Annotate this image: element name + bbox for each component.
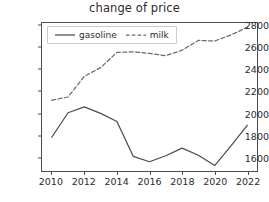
legend-entry-gasoline[interactable]: gasoline: [55, 30, 117, 40]
legend-label: gasoline: [79, 30, 117, 40]
x-tick-mark: [150, 172, 151, 175]
legend-entry-milk[interactable]: milk: [126, 30, 169, 40]
chart-title: change of price: [0, 1, 269, 15]
plot-area: [41, 22, 258, 172]
y-tick-mark: [38, 47, 41, 48]
y-tick-label: 2600: [233, 42, 269, 53]
legend-label: milk: [150, 30, 169, 40]
y-tick-mark: [38, 69, 41, 70]
x-tick-mark: [117, 172, 118, 175]
series-line-gasoline: [52, 107, 247, 166]
y-tick-label: 2400: [233, 64, 269, 75]
legend-swatch-dashed-icon: [126, 31, 146, 39]
legend-swatch-solid-icon: [55, 31, 75, 39]
x-tick-mark: [248, 172, 249, 175]
y-tick-label: 2000: [233, 108, 269, 119]
x-tick-label: 2022: [228, 176, 268, 187]
chart-legend: gasolinemilk: [47, 26, 177, 44]
x-tick-mark: [215, 172, 216, 175]
y-tick-mark: [38, 113, 41, 114]
line-chart: change of price gasolinemilk 16001800200…: [0, 0, 269, 202]
x-tick-mark: [51, 172, 52, 175]
plot-lines: [42, 23, 257, 171]
y-tick-mark: [38, 135, 41, 136]
y-tick-mark: [38, 25, 41, 26]
y-tick-mark: [38, 91, 41, 92]
y-tick-mark: [38, 157, 41, 158]
x-tick-mark: [182, 172, 183, 175]
x-tick-mark: [84, 172, 85, 175]
y-tick-label: 2800: [233, 20, 269, 31]
y-tick-label: 1600: [233, 152, 269, 163]
y-tick-label: 2200: [233, 86, 269, 97]
y-tick-label: 1800: [233, 130, 269, 141]
